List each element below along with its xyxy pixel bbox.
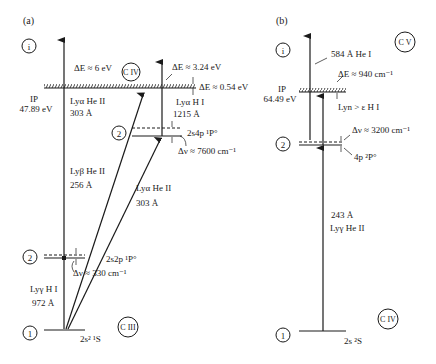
ionization-limit-hatch bbox=[44, 84, 196, 88]
panel-b: (b) i C V 584 Å He I IP 64.49 eV ΔE ≈ 94… bbox=[264, 15, 416, 346]
leader-line-584 bbox=[315, 58, 327, 64]
level-i-label-b: i bbox=[282, 46, 285, 56]
panel-b-label: (b) bbox=[276, 15, 288, 27]
ly-alpha-he-diag-label: Lyα He II bbox=[136, 183, 171, 193]
ip-value-b: 64.49 eV bbox=[264, 94, 297, 104]
ip-label: IP bbox=[30, 94, 38, 104]
level-2-upper-label: 2 bbox=[117, 129, 122, 139]
he-i-line: 584 Å He I bbox=[331, 49, 371, 59]
ly-n-h: Lyn > ε H I bbox=[338, 102, 379, 112]
ip-value: 47.89 eV bbox=[20, 104, 53, 114]
panel-a-label: (a) bbox=[23, 15, 34, 27]
ion-c-iv-label-b: C IV bbox=[380, 315, 396, 324]
state-2s2p: 2s2p ¹P° bbox=[106, 254, 137, 264]
panel-a: (a) i C IV IP 47.89 eV ΔE ≈ 6 eV ΔE ≈ 3.… bbox=[20, 15, 249, 344]
level-i-label: i bbox=[28, 42, 31, 52]
ion-c-iv-label: C IV bbox=[123, 68, 139, 77]
state-4p: 4p ²P° bbox=[354, 152, 377, 162]
dnu-3200: Δν ≈ 3200 cm⁻¹ bbox=[352, 125, 410, 135]
leader-curve bbox=[180, 136, 186, 146]
level-1-label-b: 1 bbox=[281, 331, 286, 341]
state-2s4p: 2s4p ¹P° bbox=[187, 128, 218, 138]
ly-gamma-h-label: Lyγ H I bbox=[30, 284, 57, 294]
ground-state: 2s² ¹S bbox=[80, 334, 101, 344]
ion-c-v-label: C V bbox=[399, 38, 412, 47]
ip-label-b: IP bbox=[278, 84, 286, 94]
leader-line bbox=[166, 74, 172, 80]
leader-line-3200 bbox=[344, 135, 350, 140]
ly-gamma-h-wavelength: 972 Å bbox=[32, 298, 55, 308]
dnu-7600: Δν ≈ 7600 cm⁻¹ bbox=[178, 146, 236, 156]
ly-gamma-he-label: Lyγ He II bbox=[330, 223, 364, 233]
ly-alpha-h-label: Lyα H I bbox=[176, 97, 204, 107]
ground-state-b: 2s ²S bbox=[344, 336, 362, 346]
ly-beta-he-label: Lyβ He II bbox=[70, 166, 105, 176]
level-1-label: 1 bbox=[28, 329, 33, 339]
ly-alpha-he-top-label: Lyα He II bbox=[70, 96, 105, 106]
delta-e-324ev: ΔE ≈ 3.24 eV bbox=[172, 62, 222, 72]
ly-alpha-he-top-wavelength: 303 Å bbox=[70, 108, 93, 118]
transition-arrow-ground-to-ip bbox=[66, 95, 143, 329]
ly-alpha-he-diag-wavelength: 303 Å bbox=[136, 198, 159, 208]
ionization-limit-hatch-b bbox=[299, 88, 346, 92]
ly-gamma-he-wavelength: 243 Å bbox=[331, 210, 354, 220]
level-2-lower-label: 2 bbox=[28, 253, 33, 263]
delta-e-6ev: ΔE ≈ 6 eV bbox=[74, 63, 112, 73]
ion-c-iii-label: C III bbox=[120, 323, 136, 332]
dnu-330: Δν ≈ 330 cm⁻¹ bbox=[73, 268, 127, 278]
ly-alpha-h-wavelength: 1215 Å bbox=[173, 109, 200, 119]
level-2-label-b: 2 bbox=[281, 140, 286, 150]
energy-level-diagram: (a) i C IV IP 47.89 eV ΔE ≈ 6 eV ΔE ≈ 3.… bbox=[0, 0, 436, 364]
delta-e-054ev: ΔE ≈ 0.54 eV bbox=[199, 82, 249, 92]
delta-e-940: ΔE ≈ 940 cm⁻¹ bbox=[338, 69, 393, 79]
ly-beta-he-wavelength: 256 Å bbox=[70, 180, 93, 190]
leader-line-4p bbox=[344, 148, 352, 155]
level-2s2p-node bbox=[62, 256, 66, 260]
